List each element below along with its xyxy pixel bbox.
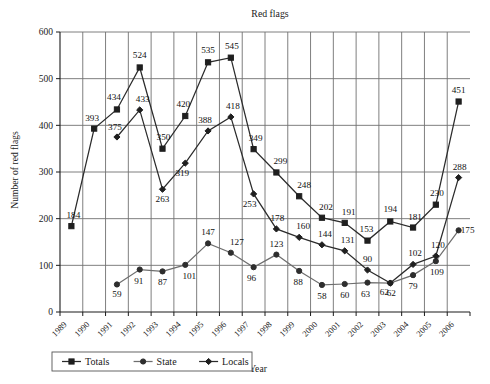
y-tick-label-300: 300 (39, 167, 54, 177)
datapoint-locals-1998 (273, 226, 279, 232)
x-tick-label-1995: 1995 (186, 319, 205, 338)
datalabel-state-2005: 109 (430, 267, 444, 277)
datalabel-locals-1995: 388 (198, 115, 212, 125)
datapoint-totals-1992 (137, 65, 142, 70)
datapoint-state-1998 (274, 252, 279, 257)
datapoint-state-1999 (297, 268, 302, 273)
datalabel-locals-2000: 144 (318, 229, 332, 239)
datalabel-totals-1997: 349 (249, 133, 263, 143)
datapoint-totals-1993 (160, 146, 165, 151)
y-tick-label-100: 100 (39, 261, 54, 271)
datapoint-totals-2001 (342, 220, 347, 225)
x-tick-label-1996: 1996 (209, 319, 229, 339)
datalabel-state-2002: 63 (361, 289, 371, 299)
datalabel-totals-2005: 230 (430, 188, 444, 198)
datapoint-totals-1990 (92, 126, 97, 131)
datapoint-totals-1999 (297, 194, 302, 199)
datalabel-locals-1991: 375 (108, 122, 122, 132)
legend-marker-totals (69, 359, 74, 364)
datapoint-state-2002 (365, 280, 370, 285)
x-tick-label-2004: 2004 (391, 319, 411, 339)
datalabel-locals-2006: 288 (453, 162, 467, 172)
datalabel-locals-1994: 319 (175, 168, 189, 178)
datalabel-locals-1992: 433 (136, 94, 150, 104)
datalabel-locals-1993: 263 (156, 194, 170, 204)
datalabel-state-1999: 88 (294, 277, 304, 287)
legend-label-locals: Locals (222, 356, 249, 367)
datapoint-totals-2000 (319, 215, 324, 220)
datapoint-totals-1991 (114, 107, 119, 112)
datalabel-state-2006: 175 (461, 225, 475, 235)
datapoint-state-1991 (114, 282, 119, 287)
red-flags-line-chart: Red flags Number of red flags Year 01002… (0, 0, 490, 384)
datalabel-locals-2001: 131 (341, 235, 355, 245)
datapoint-totals-2005 (433, 202, 438, 207)
legend-marker-state (141, 359, 146, 364)
y-tick-label-200: 200 (39, 214, 54, 224)
datapoint-state-1995 (205, 241, 210, 246)
datalabel-locals-1999: 160 (296, 221, 310, 231)
x-tick-label-1994: 1994 (163, 319, 183, 339)
y-tick-label-400: 400 (39, 121, 54, 131)
datalabel-totals-1990: 393 (85, 113, 99, 123)
x-tick-label-1993: 1993 (141, 319, 160, 338)
datapoint-totals-1996 (228, 55, 233, 60)
datalabel-totals-2006: 451 (452, 85, 466, 95)
x-tick-label-1990: 1990 (72, 319, 91, 338)
datalabel-locals-2003: 62 (387, 288, 397, 298)
datalabel-totals-1992: 524 (133, 50, 147, 60)
datapoint-locals-2006 (456, 175, 462, 181)
datalabel-state-1992: 91 (134, 276, 144, 286)
x-tick-label-2002: 2002 (346, 319, 365, 338)
y-tick-label-500: 500 (39, 74, 54, 84)
x-tick-label-1997: 1997 (232, 319, 252, 339)
datalabel-locals-1997: 253 (243, 199, 257, 209)
x-tick-label-1989: 1989 (50, 319, 69, 338)
x-axis-tick-labels: 1989199019911992199319941995199619971998… (50, 319, 457, 339)
y-axis-ticks (56, 32, 60, 312)
datalabel-totals-2004: 181 (408, 212, 422, 222)
chart-container: Red flags Number of red flags Year 01002… (0, 0, 490, 384)
x-tick-label-2000: 2000 (300, 319, 319, 338)
datalabel-state-1996: 127 (230, 237, 244, 247)
datapoint-state-2001 (342, 281, 347, 286)
x-tick-label-2005: 2005 (414, 319, 433, 338)
datapoint-totals-1994 (183, 113, 188, 118)
legend-label-totals: Totals (85, 356, 109, 367)
datalabel-totals-1994: 420 (176, 99, 190, 109)
datapoint-totals-2002 (365, 238, 370, 243)
datapoint-locals-2000 (319, 242, 325, 248)
datalabel-locals-2002: 90 (363, 254, 373, 264)
datapoint-state-1993 (160, 269, 165, 274)
datalabel-totals-1993: 350 (157, 132, 171, 142)
x-tick-label-2003: 2003 (368, 319, 387, 338)
x-tick-label-1991: 1991 (95, 319, 114, 338)
datapoint-totals-1997 (251, 147, 256, 152)
x-tick-label-1992: 1992 (118, 319, 137, 338)
datalabel-locals-1996: 418 (226, 101, 240, 111)
datalabel-state-1995: 147 (201, 227, 215, 237)
datalabel-totals-2003: 194 (383, 204, 397, 214)
datalabel-locals-2004: 102 (408, 248, 422, 258)
datapoint-state-1994 (183, 262, 188, 267)
y-axis-tick-labels: 0100200300400500600 (39, 27, 54, 317)
datalabel-state-2001: 60 (340, 290, 350, 300)
datapoint-state-1992 (137, 267, 142, 272)
datapoint-totals-1989 (69, 224, 74, 229)
datapoint-totals-1995 (205, 60, 210, 65)
x-axis-ticks (60, 312, 470, 316)
datapoint-state-1996 (228, 250, 233, 255)
datapoint-totals-1998 (274, 170, 279, 175)
x-tick-label-1998: 1998 (255, 319, 274, 338)
datapoint-locals-1997 (251, 191, 257, 197)
datalabel-totals-1999: 248 (297, 180, 311, 190)
datapoint-state-1997 (251, 265, 256, 270)
datalabel-totals-1989: 184 (66, 210, 80, 220)
datalabel-totals-1996: 545 (225, 41, 239, 51)
datalabel-state-1993: 87 (158, 277, 168, 287)
datalabel-totals-2000: 202 (319, 202, 333, 212)
datapoint-locals-1999 (296, 234, 302, 240)
datalabel-totals-1991: 434 (107, 92, 121, 102)
datapoint-totals-2004 (410, 225, 415, 230)
datalabel-totals-2002: 153 (360, 224, 374, 234)
